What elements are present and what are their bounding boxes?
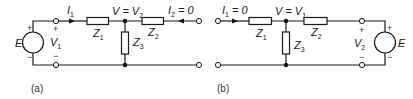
source-minus-a: − <box>27 52 32 62</box>
circuit-b: I1 = 0 Z1 V = V1 Z2 Z3 + − V2 E + − (b) <box>215 4 406 94</box>
circuit-a: E + − + − V1 I1 Z1 V = V2 Z2 I2 = 0 Z3 <box>15 4 202 94</box>
i2-label-a: I2 = 0 <box>168 4 195 18</box>
z3-label-a: Z3 <box>132 36 144 50</box>
arrow-right-icon <box>232 19 238 24</box>
wire-b-source-top <box>365 21 385 32</box>
source-plus-a: + <box>27 23 32 33</box>
v2-label-b: V2 <box>354 37 365 51</box>
terminal-b-in-bottom <box>215 62 220 67</box>
arrow-left-icon <box>178 19 184 24</box>
impedance-z2-b <box>304 18 327 25</box>
caption-b: (b) <box>217 83 229 94</box>
terminal-a-in-top <box>53 18 58 23</box>
z2-label-a: Z2 <box>147 26 159 40</box>
node-dot-a-bottom <box>123 63 127 67</box>
terminal-b-in-top <box>215 18 220 23</box>
source-plus-b: + <box>387 23 392 33</box>
caption-a: (a) <box>31 83 43 94</box>
v1-plus-a: + <box>53 24 58 34</box>
impedance-z1-a <box>87 18 109 25</box>
wire-a-source-top <box>33 21 53 32</box>
impedance-z3-b <box>283 32 290 54</box>
z2-label-b: Z2 <box>310 26 322 40</box>
terminal-a-out-top <box>196 18 201 23</box>
source-label-b: E <box>398 37 406 49</box>
node-label-a: V = V2 <box>112 5 143 19</box>
i1-label-a: I1 <box>67 4 74 18</box>
v2-minus-b: − <box>359 52 364 62</box>
v2-plus-b: + <box>359 25 364 35</box>
terminal-a-in-bottom <box>53 62 58 67</box>
source-minus-b: − <box>387 52 392 62</box>
terminal-a-out-bottom <box>196 62 201 67</box>
impedance-z2-a <box>142 18 164 25</box>
z1-label-a: Z1 <box>92 27 104 41</box>
z1-label-b: Z1 <box>255 27 267 41</box>
v1-label-a: V1 <box>50 36 61 50</box>
i1-label-b: I1 = 0 <box>222 4 249 18</box>
terminal-b-out-bottom <box>359 62 364 67</box>
arrow-right-icon <box>69 19 75 24</box>
circuit-figure: E + − + − V1 I1 Z1 V = V2 Z2 I2 = 0 Z3 <box>0 0 413 99</box>
z3-label-b: Z3 <box>293 39 305 53</box>
voltage-source-icon <box>375 32 396 53</box>
node-label-b: V = V1 <box>275 5 306 19</box>
wire-b-source-bottom <box>365 53 385 65</box>
impedance-z3-a <box>122 32 129 54</box>
node-dot-b-bottom <box>284 63 288 67</box>
impedance-z1-b <box>249 18 272 25</box>
v1-minus-a: − <box>53 51 58 61</box>
voltage-source-icon <box>23 32 44 53</box>
source-label-a: E <box>15 37 23 49</box>
terminal-b-out-top <box>359 18 364 23</box>
wire-a-source-bottom <box>33 53 53 65</box>
